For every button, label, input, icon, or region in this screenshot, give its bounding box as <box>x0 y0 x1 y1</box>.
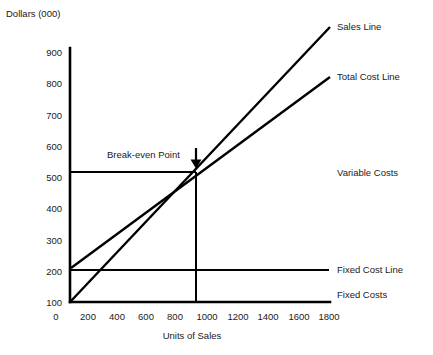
x-tick-label-1400: 1400 <box>257 311 278 322</box>
y-tick-label-100: 100 <box>46 297 62 308</box>
y-axis-title: Dollars (000) <box>6 8 60 19</box>
x-tick-label-0: 0 <box>53 311 58 322</box>
series-line-sales <box>71 27 330 301</box>
x-tick-label-1600: 1600 <box>288 311 309 322</box>
x-axis-title: Units of Sales <box>163 330 222 341</box>
x-tick-label-1800: 1800 <box>318 311 339 322</box>
x-tick-label-600: 600 <box>138 311 154 322</box>
series-label-fixed-costs: Fixed Costs <box>337 289 387 300</box>
chart-canvas: Dollars (000) 900 800 700 600 500 400 30… <box>0 0 433 355</box>
y-tick-label-300: 300 <box>46 235 62 246</box>
x-tick-label-1200: 1200 <box>227 311 248 322</box>
series-label-sales-line: Sales Line <box>337 21 381 32</box>
x-tick-label-400: 400 <box>109 311 125 322</box>
y-tick-label-900: 900 <box>46 47 62 58</box>
y-tick-label-400: 400 <box>46 203 62 214</box>
series-label-fixed-cost-line: Fixed Cost Line <box>337 264 403 275</box>
x-tick-label-1000: 1000 <box>196 311 217 322</box>
y-tick-label-600: 600 <box>46 141 62 152</box>
y-tick-label-500: 500 <box>46 172 62 183</box>
break-even-point-label: Break-even Point <box>107 149 180 160</box>
y-tick-label-700: 700 <box>46 110 62 121</box>
y-tick-label-200: 200 <box>46 266 62 277</box>
y-tick-label-800: 800 <box>46 78 62 89</box>
x-tick-label-200: 200 <box>80 311 96 322</box>
x-tick-label-800: 800 <box>167 311 183 322</box>
series-label-variable-costs: Variable Costs <box>337 167 398 178</box>
series-label-total-cost-line: Total Cost Line <box>337 71 400 82</box>
break-even-chart: Dollars (000) 900 800 700 600 500 400 30… <box>0 0 433 355</box>
